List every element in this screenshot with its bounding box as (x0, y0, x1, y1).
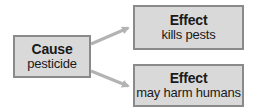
arrow-to-effect-2 (91, 71, 128, 86)
cause-title: Cause (31, 41, 72, 57)
effect-1-title: Effect (170, 12, 208, 28)
cause-text: pesticide (27, 57, 77, 72)
effect-1-text: kills pests (161, 28, 215, 43)
cause-box: Cause pesticide (13, 35, 91, 78)
effect-2-text: may harm humans (136, 86, 241, 101)
effect-box-2: Effect may harm humans (133, 64, 244, 107)
effect-box-1: Effect kills pests (133, 5, 244, 50)
effect-2-title: Effect (170, 70, 208, 86)
arrow-to-effect-1 (91, 28, 128, 44)
